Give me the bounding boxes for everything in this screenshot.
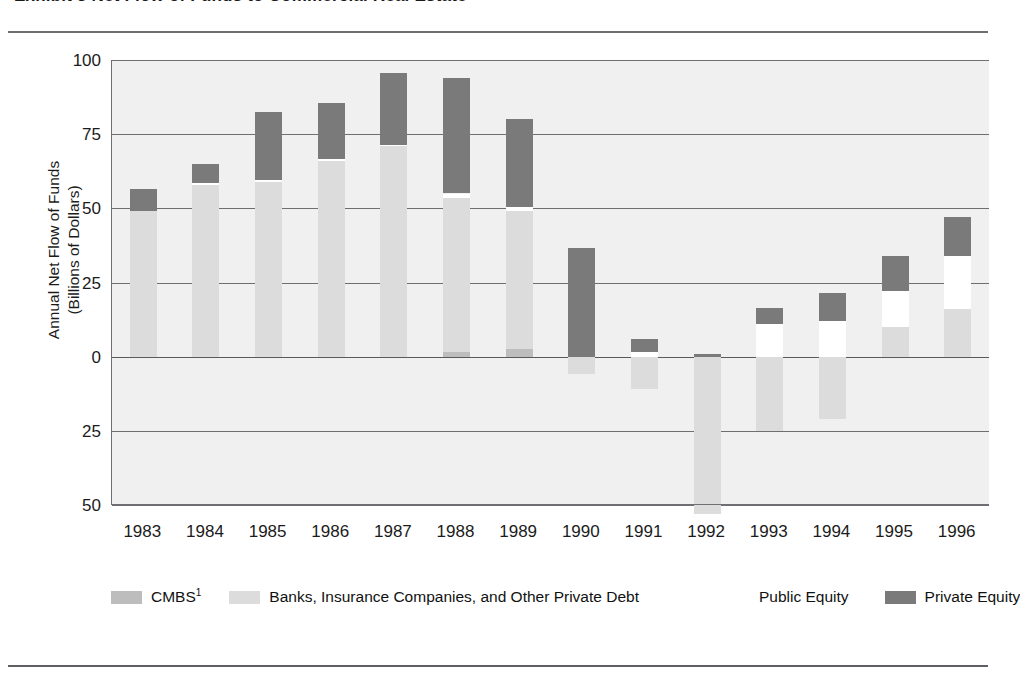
legend-item-cmbs[interactable]: CMBS1: [111, 587, 201, 606]
x-tick-label: 1993: [738, 522, 800, 542]
x-tick-label: 1995: [863, 522, 925, 542]
x-tick-label: 1987: [362, 522, 424, 542]
legend-swatch-pubeq-icon: [717, 590, 750, 605]
x-tick-label: 1990: [550, 522, 612, 542]
y-tick-label: 100: [55, 51, 101, 71]
gridline: [112, 505, 989, 506]
x-tick-label: 1988: [425, 522, 487, 542]
x-tick-label: 1994: [800, 522, 862, 542]
legend-footnote-marker: 1: [196, 587, 202, 598]
x-tick-label: 1983: [111, 522, 173, 542]
y-tick-label: 25: [55, 274, 101, 294]
plot-area: [111, 60, 989, 505]
x-axis-line: [111, 504, 989, 505]
legend-item-pubeq[interactable]: Public Equity: [717, 588, 849, 606]
bar-1996[interactable]: [112, 60, 989, 505]
legend-label-debt: Banks, Insurance Companies, and Other Pr…: [269, 588, 639, 606]
legend-label-pubeq: Public Equity: [759, 588, 849, 606]
legend-item-debt[interactable]: Banks, Insurance Companies, and Other Pr…: [229, 588, 639, 606]
y-tick-label: 0: [55, 348, 101, 368]
legend-swatch-debt-icon: [229, 591, 260, 604]
bar-segment-priveq: [944, 217, 971, 256]
y-tick-label: 50: [55, 496, 101, 516]
legend-swatch-priveq-icon: [885, 591, 916, 604]
y-tick-label: 25: [55, 422, 101, 442]
x-tick-label: 1985: [237, 522, 299, 542]
bar-segment-debt: [944, 309, 971, 356]
x-tick-label: 1989: [487, 522, 549, 542]
x-tick-label: 1996: [926, 522, 988, 542]
y-tick-label: 75: [55, 125, 101, 145]
x-tick-label: 1992: [675, 522, 737, 542]
y-axis-ticks: 10075502502550: [45, 60, 101, 505]
legend-swatch-cmbs-icon: [111, 591, 142, 604]
bar-segment-pubeq: [944, 256, 971, 309]
bar-series: [112, 60, 989, 505]
x-tick-label: 1984: [174, 522, 236, 542]
bottom-rule: [8, 665, 988, 667]
legend-label-priveq: Private Equity: [925, 588, 1020, 606]
legend-item-priveq[interactable]: Private Equity: [885, 588, 1020, 606]
x-tick-label: 1986: [299, 522, 361, 542]
y-tick-label: 50: [55, 199, 101, 219]
top-rule: [8, 31, 988, 33]
legend-label-cmbs: CMBS1: [151, 587, 201, 606]
x-tick-label: 1991: [612, 522, 674, 542]
chart-legend: CMBS1Banks, Insurance Companies, and Oth…: [111, 586, 988, 608]
